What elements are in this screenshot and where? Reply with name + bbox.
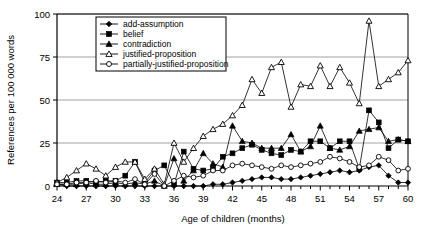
data-point-marker — [308, 161, 313, 166]
data-point-marker — [84, 180, 89, 185]
y-tick-label: 75 — [39, 52, 50, 63]
data-point-marker — [337, 156, 342, 161]
x-tick-label: 54 — [344, 193, 355, 204]
data-point-marker — [181, 149, 186, 154]
data-point-marker — [123, 173, 128, 178]
legend-item-label: contradiction — [123, 39, 171, 49]
chart-container: 0255075100 24273033363942454851545760 Ag… — [0, 0, 425, 228]
data-point-marker — [191, 175, 196, 180]
data-point-marker — [74, 180, 79, 185]
data-point-marker — [406, 166, 411, 171]
chart-legend: add-assumptionbeliefcontradictionjustifi… — [96, 17, 229, 71]
data-point-marker — [152, 172, 157, 177]
data-point-marker — [396, 168, 401, 173]
data-point-marker — [298, 163, 303, 168]
data-point-marker — [230, 163, 235, 168]
y-tick-label: 0 — [45, 181, 50, 192]
data-point-marker — [220, 168, 225, 173]
data-point-marker — [94, 178, 99, 183]
data-point-marker — [240, 146, 245, 151]
data-point-marker — [279, 153, 284, 158]
y-axis-title: References per 100 000 words — [5, 35, 16, 165]
data-point-marker — [64, 182, 69, 187]
data-point-marker — [162, 163, 167, 168]
data-point-marker — [107, 32, 112, 37]
data-point-marker — [240, 161, 245, 166]
x-tick-label: 45 — [256, 193, 267, 204]
y-tick-label: 100 — [34, 9, 50, 20]
x-tick-label: 27 — [81, 193, 92, 204]
data-point-marker — [250, 163, 255, 168]
data-point-marker — [113, 178, 118, 183]
data-point-marker — [142, 182, 147, 187]
data-point-marker — [318, 160, 323, 165]
x-tick-label: 39 — [198, 193, 209, 204]
data-point-marker — [279, 163, 284, 168]
data-point-marker — [328, 154, 333, 159]
x-tick-label: 42 — [227, 193, 238, 204]
legend-item-label: belief — [123, 29, 144, 39]
data-point-marker — [55, 182, 60, 187]
data-point-marker — [103, 180, 108, 185]
y-tick-label: 50 — [39, 95, 50, 106]
y-tick-label: 25 — [39, 138, 50, 149]
data-point-marker — [289, 165, 294, 170]
data-point-marker — [289, 147, 294, 152]
x-tick-label: 30 — [110, 193, 121, 204]
data-point-marker — [133, 177, 138, 182]
legend-item-label: add-assumption — [123, 19, 184, 29]
line-chart: 0255075100 24273033363942454851545760 Ag… — [0, 0, 425, 228]
data-point-marker — [269, 151, 274, 156]
data-point-marker — [386, 146, 391, 151]
data-point-marker — [201, 168, 206, 173]
data-point-marker — [357, 165, 362, 170]
data-point-marker — [162, 184, 167, 189]
data-point-marker — [123, 180, 128, 185]
data-point-marker — [367, 108, 372, 113]
data-point-marker — [367, 163, 372, 168]
legend-item-label: justified-proposition — [122, 49, 197, 59]
data-point-marker — [347, 160, 352, 165]
x-tick-label: 57 — [373, 193, 384, 204]
data-point-marker — [269, 166, 274, 171]
data-point-marker — [259, 165, 264, 170]
x-tick-label: 51 — [315, 193, 326, 204]
data-point-marker — [172, 178, 177, 183]
data-point-marker — [318, 139, 323, 144]
data-point-marker — [107, 62, 112, 67]
x-tick-label: 60 — [403, 193, 414, 204]
data-point-marker — [201, 173, 206, 178]
data-point-marker — [376, 154, 381, 159]
x-axis-title: Age of children (months) — [181, 213, 285, 224]
x-tick-label: 36 — [169, 193, 180, 204]
data-point-marker — [337, 139, 342, 144]
legend-item-label: partially-justified-proposition — [123, 59, 229, 69]
x-tick-label: 33 — [139, 193, 150, 204]
x-tick-label: 24 — [52, 193, 63, 204]
x-tick-label: 48 — [286, 193, 297, 204]
data-point-marker — [211, 168, 216, 173]
data-point-marker — [230, 151, 235, 156]
data-point-marker — [181, 173, 186, 178]
data-point-marker — [386, 158, 391, 163]
